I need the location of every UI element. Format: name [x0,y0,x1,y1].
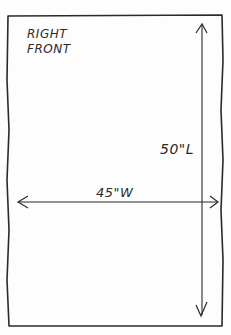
title-line-1: RIGHT [27,27,71,42]
title-line-2: FRONT [27,42,71,57]
width-dimension-label: 45"W [96,185,133,200]
sketch-canvas: RIGHT FRONT 45"W 50"L [0,0,231,335]
length-arrow [196,24,207,316]
panel-title: RIGHT FRONT [27,27,71,57]
length-dimension-label: 50"L [160,141,194,157]
panel-outline [7,15,223,326]
